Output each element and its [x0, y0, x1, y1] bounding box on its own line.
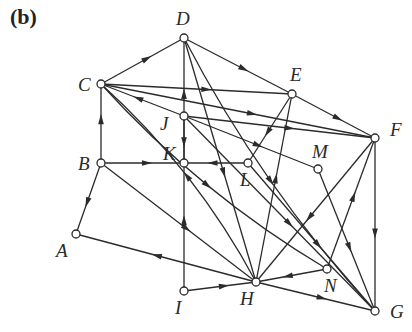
edge-H-G: [256, 282, 375, 311]
arrowhead-icon: [372, 228, 378, 238]
node-J: [180, 112, 188, 120]
arrowhead-icon: [142, 160, 152, 166]
edge-H-A: [76, 234, 256, 282]
node-N: [323, 265, 331, 273]
node-label-M: M: [311, 141, 329, 162]
edge-D-E: [184, 38, 292, 94]
node-C: [97, 80, 105, 88]
node-label-K: K: [162, 143, 177, 164]
node-D: [180, 34, 188, 42]
arrowhead-icon: [345, 242, 351, 253]
node-F: [371, 134, 379, 142]
arrowhead-icon: [152, 254, 163, 259]
edge-C-F: [101, 84, 375, 138]
arrowhead-icon: [85, 197, 91, 208]
node-G: [371, 307, 379, 315]
node-label-F: F: [389, 119, 402, 140]
arrowhead-icon: [207, 160, 217, 166]
arrowhead-icon: [349, 192, 355, 203]
node-label-N: N: [323, 275, 338, 296]
node-label-H: H: [239, 288, 255, 309]
directed-graph: ABCDEFGHIJKLMN: [0, 0, 412, 332]
edge-B-H: [101, 163, 256, 282]
arrowhead-icon: [133, 96, 144, 102]
edge-C-D: [101, 38, 184, 84]
arrowhead-icon: [283, 273, 294, 279]
arrowhead-icon: [141, 56, 151, 63]
edge-C-N: [101, 84, 327, 269]
node-label-E: E: [289, 64, 302, 85]
arrowhead-icon: [219, 284, 229, 290]
arrowhead-icon: [181, 89, 187, 99]
node-label-G: G: [390, 301, 404, 322]
node-label-B: B: [78, 153, 90, 174]
arrowhead-icon: [247, 110, 258, 116]
arrowhead-icon: [238, 64, 248, 71]
node-E: [288, 90, 296, 98]
node-M: [314, 165, 322, 173]
arrowhead-icon: [332, 113, 342, 120]
node-H: [252, 278, 260, 286]
edge-J-G: [184, 116, 375, 311]
node-L: [244, 159, 252, 167]
node-A: [72, 230, 80, 238]
node-label-J: J: [160, 113, 170, 134]
arrowhead-icon: [265, 126, 273, 136]
arrowhead-icon: [220, 167, 226, 178]
arrowhead-icon: [98, 114, 104, 124]
node-B: [97, 159, 105, 167]
arrowhead-icon: [181, 215, 187, 225]
node-I: [180, 287, 188, 295]
node-K: [180, 159, 188, 167]
arrowhead-icon: [272, 173, 278, 184]
node-label-L: L: [239, 169, 251, 190]
node-label-D: D: [175, 8, 190, 29]
node-label-A: A: [54, 240, 68, 261]
node-label-I: I: [174, 297, 183, 318]
node-label-C: C: [78, 74, 91, 95]
